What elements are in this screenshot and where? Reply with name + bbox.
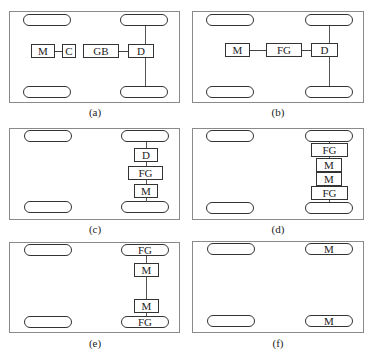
shaft [119, 51, 128, 52]
wheel-rear-right: FG [121, 316, 169, 328]
wheel-rear-right: M [305, 315, 353, 327]
caption-e: (e) [75, 337, 115, 349]
wheel-front-left [23, 14, 71, 26]
differential-box: D [134, 148, 158, 162]
wheel-rear-left [24, 201, 72, 213]
motor-box: M [316, 158, 342, 172]
wheel-front-right [121, 130, 169, 142]
gearbox-box: GB [83, 44, 119, 58]
wheel-rear-left [23, 86, 71, 98]
motor-box: M [134, 263, 159, 277]
wheel-rear-right [305, 86, 353, 98]
motor-box: M [316, 172, 342, 186]
wheel-front-left [206, 130, 254, 142]
wheel-rear-right [121, 201, 169, 213]
fixed-gear-box: FG [311, 143, 348, 157]
motor-box: M [225, 43, 250, 57]
clutch-box: C [62, 44, 76, 58]
wheel-front-left [206, 14, 254, 26]
wheel-front-right: M [305, 243, 353, 255]
caption-d: (d) [258, 223, 298, 235]
wheel-rear-left [206, 86, 254, 98]
wheel-rear-left [207, 315, 255, 327]
wheel-front-right [120, 14, 168, 26]
motor-box: M [134, 184, 158, 198]
caption-f: (f) [258, 337, 298, 349]
wheel-front-right [305, 130, 353, 142]
wheel-rear-right [305, 202, 353, 214]
wheel-front-left [24, 244, 72, 256]
wheel-front-right: FG [121, 244, 169, 256]
wheel-front-left [24, 130, 72, 142]
fixed-gear-box: FG [311, 186, 348, 200]
shaft [250, 50, 266, 51]
wheel-front-right [305, 14, 353, 26]
differential-box: D [128, 44, 154, 58]
caption-c: (c) [75, 223, 115, 235]
shaft [302, 50, 311, 51]
wheel-rear-left [24, 316, 72, 328]
shaft [55, 51, 62, 52]
wheel-rear-right [120, 86, 168, 98]
differential-box: D [311, 43, 338, 57]
motor-box: M [31, 44, 55, 58]
motor-box: M [134, 299, 159, 313]
fixed-gear-box: FG [128, 166, 163, 180]
fixed-gear-box: FG [266, 43, 302, 57]
wheel-rear-left [206, 202, 254, 214]
wheel-front-left [207, 243, 255, 255]
caption-b: (b) [258, 106, 298, 118]
caption-a: (a) [75, 106, 115, 118]
